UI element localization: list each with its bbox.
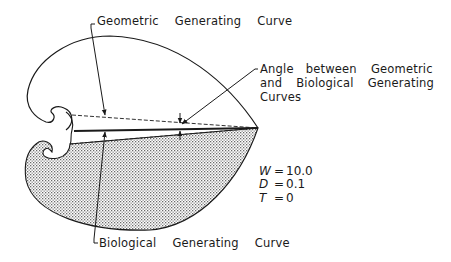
param-w: W=10.0 — [259, 164, 313, 178]
label-geometric-generating-curve: GeometricGeneratingCurve — [97, 14, 292, 28]
param-t: T=0 — [259, 191, 294, 205]
param-d: D=0.1 — [259, 177, 305, 191]
lower-shell-stippled — [25, 128, 258, 230]
label-biological-generating-curve: BiologicalGeneratingCurve — [99, 236, 290, 250]
label-angle: AnglebetweenGeometric andBiologicalGener… — [260, 62, 434, 104]
upper-shell-outline — [27, 36, 258, 130]
angle-leader — [182, 69, 258, 124]
shell-diagram — [0, 0, 451, 262]
geometric-generating-line — [72, 115, 258, 128]
